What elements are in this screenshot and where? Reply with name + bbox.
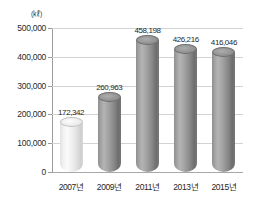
bar-top-ellipse xyxy=(136,35,159,45)
bar xyxy=(60,117,83,172)
bar xyxy=(98,92,121,172)
y-axis-tick-label: 500,000 xyxy=(0,23,46,33)
plot-area xyxy=(52,28,243,172)
bar-value-label: 416,046 xyxy=(211,38,237,47)
bar-value-label: 172,342 xyxy=(58,108,84,117)
y-axis-unit-label: (㎘) xyxy=(31,8,42,18)
bar-body xyxy=(212,52,235,172)
y-axis-tick-label: 100,000 xyxy=(0,138,46,148)
x-axis-label: 2007년 xyxy=(59,180,84,192)
y-axis-tick-label: 0 xyxy=(0,167,46,177)
bar xyxy=(212,47,235,172)
x-axis-label: 2015년 xyxy=(211,180,236,192)
y-axis-tick-label: 300,000 xyxy=(0,81,46,91)
y-axis-tick-label: 200,000 xyxy=(0,109,46,119)
bar-value-label: 426,216 xyxy=(173,35,199,44)
x-axis-label: 2009년 xyxy=(97,180,122,192)
bar-body xyxy=(136,40,159,172)
bar xyxy=(174,44,197,172)
y-axis-tick-label: 400,000 xyxy=(0,52,46,62)
bar-body xyxy=(60,122,83,172)
bar-top-ellipse xyxy=(98,92,121,102)
bar-body xyxy=(174,49,197,172)
bar xyxy=(136,35,159,172)
bar-value-label: 260,963 xyxy=(96,83,122,92)
bar-chart: (㎘) 0100,000200,000300,000400,000500,000… xyxy=(0,0,255,215)
x-axis-label: 2013년 xyxy=(173,180,198,192)
x-axis-label: 2011년 xyxy=(135,180,159,192)
bar-value-label: 458,198 xyxy=(134,26,160,35)
bar-body xyxy=(98,97,121,172)
gridline xyxy=(52,172,243,173)
